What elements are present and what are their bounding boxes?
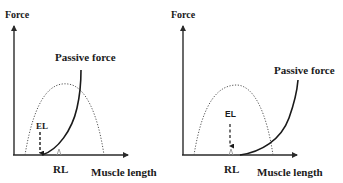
rl-tick [57, 149, 61, 155]
active-force-curve [194, 85, 273, 155]
y-axis-label: Force [171, 10, 195, 20]
left-diagram-panel: Force Passive force EL RL Muscle length [0, 0, 171, 183]
right-diagram-panel: Force Passive force EL RL Muscle length [171, 0, 342, 183]
el-label: EL [225, 110, 236, 119]
passive-force-curve [240, 80, 298, 155]
x-axis-label: Muscle length [257, 167, 323, 178]
passive-force-label: Passive force [55, 52, 116, 63]
x-axis-label: Muscle length [91, 167, 157, 178]
y-axis-label: Force [5, 10, 29, 20]
rl-label: RL [53, 164, 68, 175]
rl-tick [229, 149, 233, 155]
el-label: EL [36, 122, 48, 131]
active-force-curve [25, 72, 68, 155]
passive-force-label: Passive force [274, 65, 335, 76]
right-diagram-graphics [171, 0, 343, 183]
left-diagram-graphics [0, 0, 171, 183]
passive-force-curve [42, 70, 81, 155]
rl-label: RL [224, 164, 239, 175]
